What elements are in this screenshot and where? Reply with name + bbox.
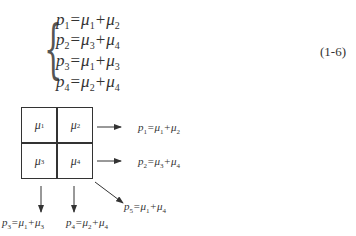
output-p4: p4=μ2+μ4	[66, 216, 108, 231]
output-p1: p1=μ1+μ2	[138, 121, 180, 136]
arrows	[0, 0, 356, 236]
output-p2: p2=μ3+μ4	[138, 155, 180, 170]
arrow-diagonal	[95, 182, 123, 203]
output-p3: p3=μ1+μ3	[2, 216, 44, 231]
output-p5: p5=μ1+μ4	[124, 200, 166, 215]
